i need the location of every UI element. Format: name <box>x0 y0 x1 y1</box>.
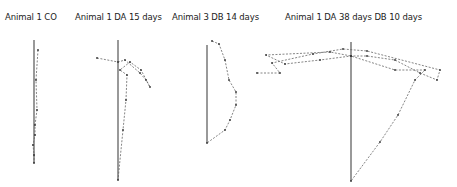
trajectory-plots <box>0 0 457 187</box>
data-point <box>379 141 381 143</box>
data-point <box>350 180 352 182</box>
data-point <box>271 62 273 64</box>
data-point <box>329 51 331 53</box>
data-point <box>394 59 396 61</box>
data-point <box>37 49 39 51</box>
data-point <box>34 134 36 136</box>
data-point <box>319 59 321 61</box>
data-point <box>117 61 119 63</box>
data-point <box>235 91 237 93</box>
data-point <box>139 72 141 74</box>
data-point <box>366 55 368 57</box>
data-point <box>414 79 416 81</box>
data-point <box>140 69 142 71</box>
data-point <box>33 154 35 156</box>
panel-2 <box>96 40 151 181</box>
data-point <box>124 59 126 61</box>
data-point <box>35 79 37 81</box>
data-point <box>96 57 98 59</box>
data-point <box>284 63 286 65</box>
panel-1 <box>32 40 39 164</box>
data-point <box>424 69 426 71</box>
data-point <box>117 179 119 181</box>
data-point <box>350 55 352 57</box>
data-point <box>439 69 441 71</box>
trajectory-trace <box>207 41 236 143</box>
trajectory-trace <box>257 49 440 181</box>
data-point <box>342 48 344 50</box>
data-point <box>279 72 281 74</box>
data-point <box>129 61 131 63</box>
data-point <box>366 50 368 52</box>
data-point <box>235 104 237 106</box>
data-point <box>394 69 396 71</box>
data-point <box>145 79 147 81</box>
data-point <box>218 43 220 45</box>
data-point <box>206 142 208 144</box>
trajectory-trace <box>97 58 150 180</box>
data-point <box>265 54 267 56</box>
data-point <box>228 79 230 81</box>
data-point <box>224 59 226 61</box>
panel-3 <box>206 40 237 144</box>
data-point <box>122 129 124 131</box>
data-point <box>436 79 438 81</box>
data-point <box>36 109 38 111</box>
data-point <box>397 114 399 116</box>
data-point <box>32 144 34 146</box>
data-point <box>256 72 258 74</box>
data-point <box>34 124 36 126</box>
data-point <box>126 74 128 76</box>
data-point <box>33 162 35 164</box>
data-point <box>211 40 213 42</box>
data-point <box>419 72 421 74</box>
data-point <box>229 119 231 121</box>
data-point <box>119 69 121 71</box>
data-point <box>149 86 151 88</box>
data-point <box>312 53 314 55</box>
data-point <box>125 99 127 101</box>
data-point <box>224 129 226 131</box>
panel-4 <box>256 42 441 182</box>
